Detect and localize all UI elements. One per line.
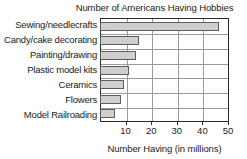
bar-ceramics xyxy=(100,80,124,89)
bar-row xyxy=(101,48,228,63)
bar-plastic-model-kits xyxy=(100,66,129,75)
bar-flowers xyxy=(100,95,121,104)
x-tick-label: 40 xyxy=(197,125,208,136)
x-tick-label: 30 xyxy=(172,125,183,136)
x-tick-label: 10 xyxy=(120,125,131,136)
plot-area xyxy=(100,18,229,122)
bar-row xyxy=(101,34,228,49)
category-label: Flowers xyxy=(0,92,99,107)
bar-row xyxy=(101,92,228,107)
bar-row xyxy=(101,63,228,78)
bars-layer xyxy=(101,19,228,121)
x-axis-ticks: 1020304050 xyxy=(100,122,229,126)
category-label: Painting/drawing xyxy=(0,48,99,63)
bar-chart: Number of Americans Having Hobbies Sewin… xyxy=(0,0,247,159)
bar-painting-drawing xyxy=(100,51,136,60)
category-label: Candy/cake decorating xyxy=(0,33,99,48)
bar-row xyxy=(101,106,228,121)
bar-sewing-needlecrafts xyxy=(100,22,219,31)
x-tick-label: 50 xyxy=(223,125,234,136)
category-label: Plastic model kits xyxy=(0,63,99,78)
bar-row xyxy=(101,77,228,92)
category-axis-labels: Sewing/needlecrafts Candy/cake decoratin… xyxy=(0,18,99,122)
x-tick-label: 20 xyxy=(146,125,157,136)
chart-title: Number of Americans Having Hobbies xyxy=(62,2,247,13)
category-label: Ceramics xyxy=(0,77,99,92)
category-label: Sewing/needlecrafts xyxy=(0,18,99,33)
bar-model-railroading xyxy=(100,109,115,118)
bar-row xyxy=(101,19,228,34)
x-axis-title: Number Having (in millions) xyxy=(82,143,247,154)
category-label: Model Railroading xyxy=(0,107,99,122)
bar-candy-cake-decorating xyxy=(100,36,139,45)
